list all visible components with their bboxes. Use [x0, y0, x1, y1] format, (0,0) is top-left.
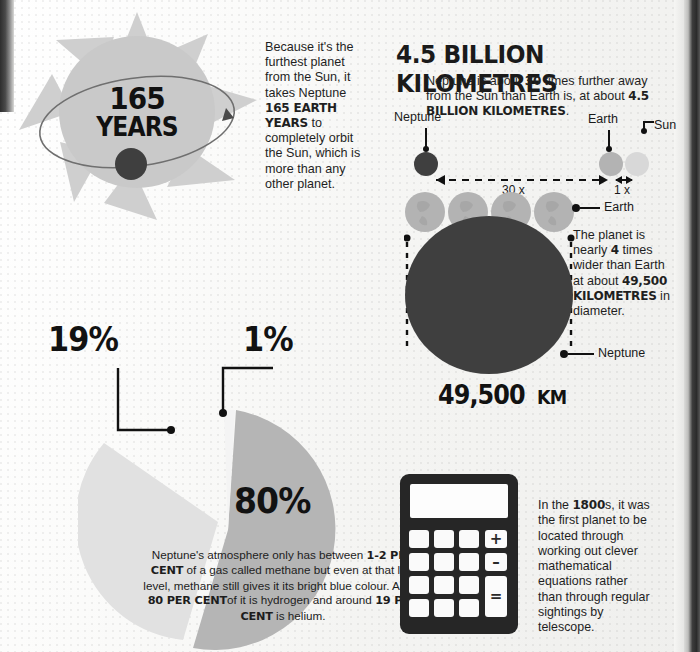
- earth-scale-4: [534, 192, 574, 232]
- atm-caption-2b: 80 PER CENT: [148, 594, 227, 607]
- calc-key-equals: =: [485, 576, 507, 617]
- neptune-callout-dot: [560, 350, 568, 358]
- callout-19-dot: [167, 426, 175, 434]
- diameter-readout: 49,500KM: [438, 380, 569, 410]
- pie-label-19: 19%: [48, 320, 118, 359]
- callout-1-dot: [219, 409, 227, 417]
- calc-key: [409, 553, 429, 571]
- calc-key: [459, 553, 479, 571]
- pie-label-1: 1%: [243, 320, 293, 359]
- atmosphere-caption: Neptune's atmosphere only has between 1-…: [138, 548, 428, 624]
- neptune-body: [414, 152, 438, 176]
- calc-key: [434, 576, 454, 594]
- atm-caption-4: is helium.: [273, 609, 326, 622]
- atmosphere-pie-chart: 19% 1% 80% Neptune's atmosphere only has…: [78, 382, 378, 652]
- callout-1-line: [223, 368, 273, 410]
- calculator-graphic: + – =: [400, 474, 518, 634]
- label-sun-distance: Sun: [654, 118, 676, 132]
- size-caption-b: 4: [611, 243, 619, 257]
- calculator-screen: [410, 484, 508, 518]
- sun-body: [625, 152, 649, 176]
- neptune-leader-dot: [423, 146, 429, 152]
- calc-key: [434, 553, 454, 571]
- book-edge-right: [684, 0, 700, 652]
- size-caption: The planet is nearly 4 times wider than …: [573, 228, 675, 319]
- infographic-page: 165 YEARS Because it's the furthest plan…: [0, 0, 700, 652]
- measure-dot-left: [404, 235, 411, 242]
- callout-19-line: [118, 368, 168, 430]
- discovery-caption: In the 1800s, it was the first planet to…: [538, 498, 650, 636]
- label-earth-distance: Earth: [588, 112, 618, 126]
- pie-label-80: 80%: [234, 480, 311, 521]
- orbit-caption-pre: Because it's the furthest planet from th…: [265, 40, 354, 100]
- calc-key-plus: +: [485, 530, 507, 548]
- calc-key: [409, 599, 429, 617]
- discovery-caption-a: In the: [538, 498, 572, 512]
- label-neptune-size: Neptune: [598, 346, 645, 360]
- calc-key: [409, 530, 429, 548]
- atm-caption-2: of a gas called methane but even at that…: [143, 563, 422, 591]
- sun-leader-dot: [641, 128, 647, 134]
- atm-caption-3: of it is hydrogen and around: [227, 593, 375, 606]
- diameter-value: 49,500: [438, 380, 525, 410]
- calc-key: [409, 576, 429, 594]
- discovery-block: + – = In the 1800s, it was the first pla…: [400, 474, 518, 634]
- label-earth-size: Earth: [604, 200, 634, 214]
- calc-key: [434, 599, 454, 617]
- neptune-size-disc: [405, 216, 573, 374]
- atm-caption-1: Neptune's atmosphere only has between: [152, 548, 367, 561]
- discovery-caption-wrap: In the 1800s, it was the first planet to…: [538, 498, 650, 636]
- orbit-badge-years: 165: [25, 84, 250, 113]
- orbit-badge-unit: YEARS: [25, 113, 250, 142]
- earth-body: [599, 152, 623, 176]
- orbit-caption: Because it's the furthest planet from th…: [265, 40, 361, 192]
- arrow-left-30x: [436, 175, 445, 185]
- distance-caption-a: Neptune is about: [426, 74, 525, 88]
- calc-key: [434, 530, 454, 548]
- calc-key-minus: –: [485, 553, 507, 571]
- diameter-unit: KM: [537, 386, 566, 408]
- orbit-badge: 165 YEARS: [12, 84, 262, 142]
- calc-key: [459, 576, 479, 594]
- discovery-caption-b: 1800: [572, 498, 605, 512]
- sun-leader: [644, 122, 654, 129]
- distance-caption-b: 30: [525, 74, 541, 88]
- orbit-graphic: 165 YEARS: [12, 12, 262, 222]
- earth-scale-1: [405, 192, 445, 232]
- orbit-caption-bold: 165 EARTH YEARS: [265, 101, 337, 130]
- earth-callout-dot: [572, 204, 580, 212]
- arrow-right-30x: [599, 175, 608, 185]
- calc-key: [459, 530, 479, 548]
- label-neptune-distance: Neptune: [394, 110, 441, 124]
- discovery-caption-c: s, it was the first planet to be located…: [538, 498, 650, 634]
- earth-leader-dot: [606, 146, 612, 152]
- neptune-orbit-dot: [115, 148, 147, 180]
- calc-key: [459, 599, 479, 617]
